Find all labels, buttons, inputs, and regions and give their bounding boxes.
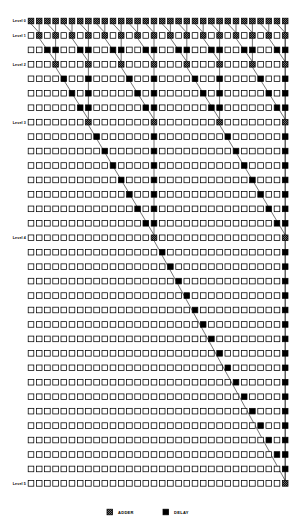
cell-empty <box>192 221 198 227</box>
cell-empty <box>102 177 108 183</box>
cell-empty <box>192 466 198 472</box>
cell-empty <box>250 148 256 154</box>
cell-empty <box>258 408 264 414</box>
cell-empty <box>118 264 124 270</box>
cell-adder <box>69 18 75 24</box>
cell-empty <box>69 293 75 299</box>
cell-delay <box>143 47 149 53</box>
cell-empty <box>45 206 51 212</box>
cell-empty <box>200 148 206 154</box>
cell-empty <box>135 148 141 154</box>
cell-empty <box>135 452 141 458</box>
cell-empty <box>168 235 174 241</box>
cell-delay <box>282 90 288 96</box>
cell-empty <box>61 235 67 241</box>
cell-empty <box>127 119 133 125</box>
cell-empty <box>176 90 182 96</box>
cell-empty <box>233 249 239 255</box>
cell-empty <box>168 408 174 414</box>
cell-empty <box>250 163 256 169</box>
cell-empty <box>118 307 124 313</box>
cell-empty <box>94 336 100 342</box>
cell-empty <box>233 481 239 487</box>
cell-empty <box>176 322 182 328</box>
cell-empty <box>258 177 264 183</box>
cell-empty <box>143 134 149 140</box>
cell-delay <box>274 47 280 53</box>
cell-empty <box>192 148 198 154</box>
cell-empty <box>184 336 190 342</box>
cell-empty <box>176 394 182 400</box>
cell-delay <box>94 134 100 140</box>
cell-empty <box>258 322 264 328</box>
cell-empty <box>69 322 75 328</box>
cell-empty <box>77 177 83 183</box>
cell-empty <box>274 249 280 255</box>
cell-empty <box>135 365 141 371</box>
cell-empty <box>53 365 59 371</box>
cell-empty <box>135 235 141 241</box>
cell-adder <box>250 62 256 68</box>
cell-empty <box>110 105 116 111</box>
cell-empty <box>77 322 83 328</box>
cell-empty <box>94 264 100 270</box>
cell-adder <box>53 33 59 39</box>
cell-empty <box>200 163 206 169</box>
cell-empty <box>241 206 247 212</box>
cell-empty <box>225 351 231 357</box>
cell-empty <box>159 33 165 39</box>
cell-empty <box>192 322 198 328</box>
cell-empty <box>61 90 67 96</box>
cell-empty <box>36 379 42 385</box>
cell-empty <box>28 235 34 241</box>
cell-empty <box>184 235 190 241</box>
cell-empty <box>86 322 92 328</box>
cell-delay <box>241 47 247 53</box>
cell-empty <box>159 206 165 212</box>
cell-empty <box>28 264 34 270</box>
cell-empty <box>233 90 239 96</box>
cell-empty <box>159 365 165 371</box>
cell-delay <box>217 76 223 82</box>
cell-adder <box>127 18 133 24</box>
cell-empty <box>266 249 272 255</box>
cell-empty <box>45 235 51 241</box>
cell-empty <box>53 163 59 169</box>
adder-tree-canvas: Level 0Level 1Level 2Level 3Level 4Level… <box>0 0 295 530</box>
cell-empty <box>118 365 124 371</box>
cell-empty <box>266 394 272 400</box>
cell-empty <box>266 264 272 270</box>
cell-empty <box>184 134 190 140</box>
cell-empty <box>36 47 42 53</box>
cell-empty <box>176 437 182 443</box>
cell-empty <box>36 293 42 299</box>
cell-empty <box>200 47 206 53</box>
cell-empty <box>61 206 67 212</box>
cell-delay <box>282 394 288 400</box>
cell-empty <box>266 351 272 357</box>
cell-empty <box>274 192 280 198</box>
cell-delay <box>110 47 116 53</box>
cell-empty <box>61 293 67 299</box>
cell-delay <box>250 408 256 414</box>
cell-empty <box>217 307 223 313</box>
cell-adder <box>28 18 34 24</box>
cell-empty <box>36 148 42 154</box>
cell-empty <box>225 278 231 284</box>
cell-empty <box>28 307 34 313</box>
cell-empty <box>209 221 215 227</box>
cell-empty <box>159 307 165 313</box>
cell-empty <box>77 278 83 284</box>
cell-empty <box>86 408 92 414</box>
cell-empty <box>28 293 34 299</box>
cell-empty <box>241 351 247 357</box>
cell-empty <box>110 336 116 342</box>
cell-empty <box>143 379 149 385</box>
cell-empty <box>225 119 231 125</box>
cell-empty <box>143 33 149 39</box>
cell-delay <box>192 307 198 313</box>
cell-delay <box>176 278 182 284</box>
cell-empty <box>209 76 215 82</box>
cell-empty <box>192 206 198 212</box>
cell-empty <box>69 408 75 414</box>
